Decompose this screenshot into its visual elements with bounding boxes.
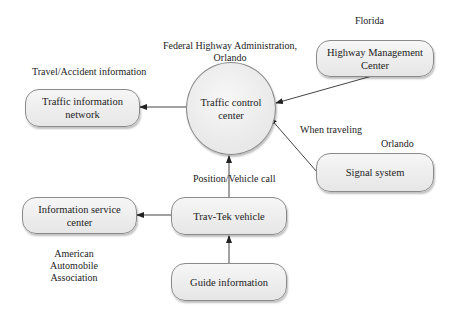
node-label: Traffic information network [42, 95, 123, 121]
label-florida: Florida [355, 15, 384, 27]
node-highway-management-center: Highway Management Center [316, 40, 434, 77]
node-guide-information: Guide information [171, 263, 287, 301]
label-orlando: Orlando [381, 138, 414, 150]
node-signal-system: Signal system [316, 153, 434, 192]
node-label: Signal system [346, 166, 405, 179]
node-label: Guide information [190, 276, 268, 289]
node-label: Trav-Tek vehicle [193, 210, 264, 223]
node-travtek-vehicle: Trav-Tek vehicle [171, 197, 287, 235]
label-when-traveling: When traveling [300, 124, 362, 136]
label-travel-accident: Travel/Accident information [32, 66, 146, 78]
label-position-vehicle-call: Position/Vehicle call [193, 173, 276, 185]
label-aaa: American Automobile Association [34, 248, 114, 284]
node-traffic-control-center: Traffic control center [186, 62, 276, 155]
node-information-service-center: Information service center [22, 197, 137, 234]
label-fhwa: Federal Highway Administration, Orlando [150, 40, 310, 64]
node-label: Highway Management Center [327, 46, 423, 72]
node-label: Information service center [38, 203, 121, 229]
node-label: Traffic control center [201, 96, 262, 122]
node-traffic-information-network: Traffic information network [25, 89, 140, 127]
edge-hmc-to-tcc [276, 76, 372, 103]
